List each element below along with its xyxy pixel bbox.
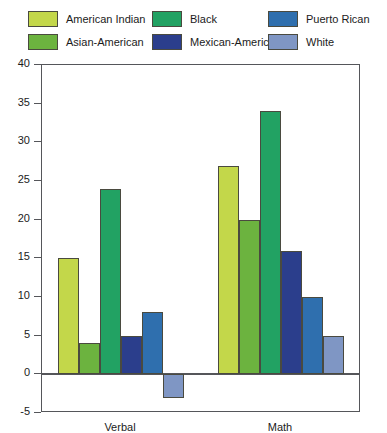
legend-label: White	[306, 37, 334, 48]
legend-swatch-icon	[28, 34, 58, 50]
x-axis-category-label: Math	[217, 422, 343, 433]
y-axis-tick	[34, 412, 41, 413]
y-axis-tick	[34, 141, 41, 142]
y-axis-tick-label: 30	[18, 135, 30, 146]
y-axis-tick	[34, 64, 41, 65]
bar	[58, 258, 79, 374]
bar	[281, 251, 302, 375]
legend-item: Asian-American	[28, 33, 144, 51]
y-axis-tick-label: 0	[24, 367, 30, 378]
bar	[302, 297, 323, 374]
legend-label: American Indian	[66, 14, 146, 25]
x-axis-category-label: Verbal	[57, 422, 183, 433]
chart-area: -50510152025303540VerbalMath	[0, 56, 387, 404]
bar	[163, 374, 184, 397]
chart-legend: American IndianAsian-AmericanBlackMexica…	[0, 0, 387, 56]
bar	[79, 343, 100, 374]
bar	[218, 166, 239, 375]
y-axis-tick-label: 25	[18, 174, 30, 185]
y-axis-tick	[34, 257, 41, 258]
legend-label: Black	[190, 14, 217, 25]
legend-label: Puerto Rican	[306, 14, 370, 25]
bar	[260, 111, 281, 374]
legend-item: Black	[152, 10, 217, 28]
y-axis-tick	[34, 180, 41, 181]
y-axis-tick-label: 20	[18, 213, 30, 224]
plot-inner	[42, 65, 359, 411]
legend-swatch-icon	[152, 34, 182, 50]
plot-frame	[41, 64, 360, 412]
legend-item: Puerto Rican	[268, 10, 370, 28]
y-axis-tick-label: 10	[18, 290, 30, 301]
legend-item: White	[268, 33, 334, 51]
bar	[100, 189, 121, 375]
y-axis-tick-label: 35	[18, 97, 30, 108]
legend-swatch-icon	[268, 34, 298, 50]
bar	[323, 336, 344, 375]
legend-item: American Indian	[28, 10, 146, 28]
y-axis-tick	[34, 219, 41, 220]
bar	[239, 220, 260, 375]
y-axis-tick	[34, 103, 41, 104]
legend-label: Asian-American	[66, 37, 144, 48]
legend-swatch-icon	[152, 11, 182, 27]
bar	[142, 312, 163, 374]
y-axis-tick-label: 40	[18, 58, 30, 69]
y-axis-tick-label: 15	[18, 251, 30, 262]
legend-swatch-icon	[268, 11, 298, 27]
y-axis-tick	[34, 296, 41, 297]
y-axis-tick	[34, 335, 41, 336]
y-axis-tick-label: -5	[20, 406, 30, 417]
y-axis-tick	[34, 373, 41, 374]
bar	[121, 336, 142, 375]
legend-item: Mexican-American	[152, 33, 281, 51]
y-axis-tick-label: 5	[24, 329, 30, 340]
legend-swatch-icon	[28, 11, 58, 27]
